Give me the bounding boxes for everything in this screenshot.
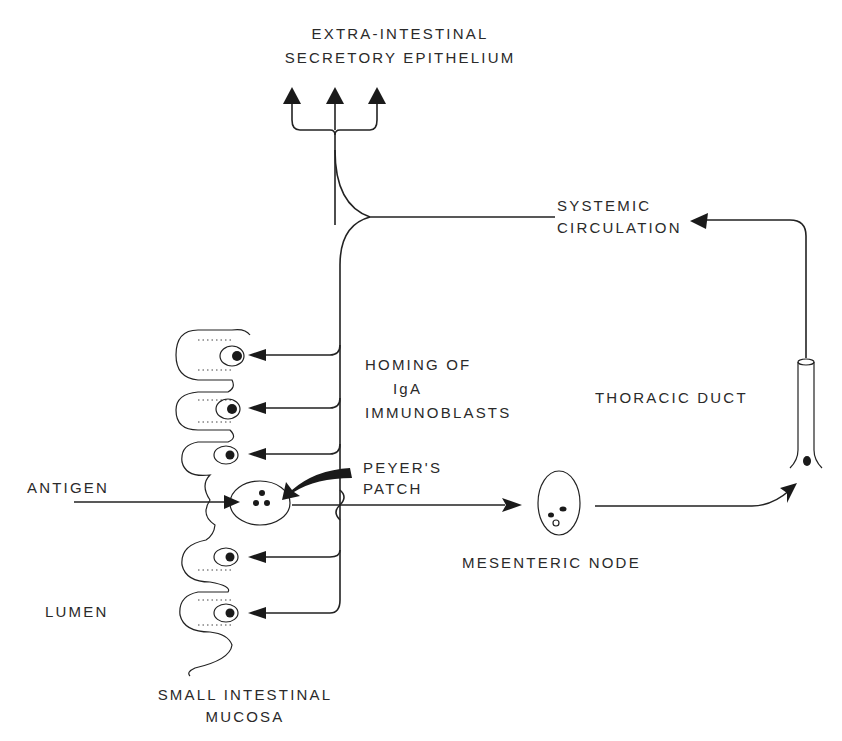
- thoracic-duct-shape: [790, 359, 822, 468]
- peyers-patch-label: PEYER'S PATCH: [363, 458, 442, 499]
- systemic-line2: CIRCULATION: [557, 218, 682, 238]
- homing-arrows: [248, 345, 340, 619]
- homing-label: HOMING OF IgA IMMUNOBLASTS: [365, 355, 511, 423]
- systemic-circulation-label: SYSTEMIC CIRCULATION: [557, 196, 682, 238]
- thoracic-duct-label: THORACIC DUCT: [595, 388, 748, 408]
- extra-intestinal-line2: SECRETORY EPITHELIUM: [270, 48, 530, 68]
- lumen-label: LUMEN: [45, 602, 109, 622]
- antigen-label: ANTIGEN: [27, 478, 109, 498]
- peyers-line2: PATCH: [363, 479, 442, 499]
- extra-intestinal-label: EXTRA-INTESTINAL SECRETORY EPITHELIUM: [270, 24, 530, 68]
- mesenteric-to-thoracic-arrow: [595, 483, 797, 506]
- peyers-line1: PEYER'S: [363, 458, 442, 478]
- mucosa-label: SMALL INTESTINAL MUCOSA: [130, 685, 360, 727]
- mucosa-line2: MUCOSA: [130, 707, 360, 727]
- peyers-patch-shape: [230, 468, 352, 525]
- homing-line3: IMMUNOBLASTS: [365, 403, 511, 423]
- homing-line1: HOMING OF: [365, 355, 511, 375]
- homing-line2: IgA: [393, 379, 511, 399]
- mesenteric-node-shape: [538, 471, 580, 535]
- systemic-line1: SYSTEMIC: [557, 196, 682, 216]
- extra-intestinal-line1: EXTRA-INTESTINAL: [270, 24, 530, 44]
- mucosa-line1: SMALL INTESTINAL: [130, 685, 360, 705]
- diagram-canvas: EXTRA-INTESTINAL SECRETORY EPITHELIUM SY…: [0, 0, 842, 741]
- mesenteric-node-label: MESENTERIC NODE: [462, 553, 641, 573]
